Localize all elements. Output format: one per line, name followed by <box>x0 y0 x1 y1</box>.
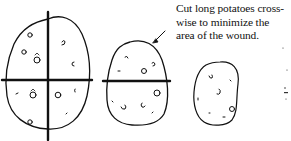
edge-specks <box>282 47 288 99</box>
annotation-text: Cut long potatoes cross- wise to minimiz… <box>176 2 291 43</box>
potato-whole-outline <box>194 62 238 125</box>
annotation-arrowhead <box>153 39 158 43</box>
illustration: Cut long potatoes cross- wise to minimiz… <box>0 0 291 141</box>
potato-halved-outline <box>107 41 168 125</box>
annotation-line-3: area of the wound. <box>176 29 291 43</box>
annotation-line-1: Cut long potatoes cross- <box>176 2 291 16</box>
annotation-line-2: wise to minimize the <box>176 16 291 30</box>
